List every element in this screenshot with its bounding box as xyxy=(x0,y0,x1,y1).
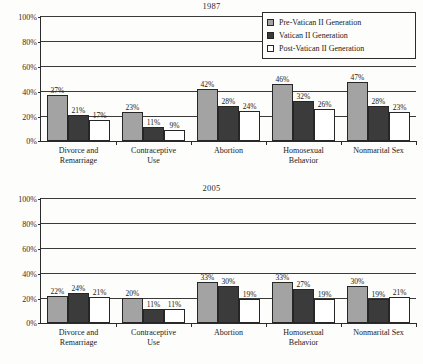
bar-value-label: 47% xyxy=(351,73,365,82)
chart-2005: 2005 100% 80% 60% 40% 20% xyxy=(0,182,423,364)
bar-pre-vatican[interactable]: 33% xyxy=(272,282,293,323)
bar-post-vatican[interactable]: 26% xyxy=(314,109,335,142)
legend-label: Vatican II Generation xyxy=(279,31,348,40)
ytick-label-80: 80% xyxy=(22,220,37,229)
bar-vatican[interactable]: 19% xyxy=(368,299,389,323)
bar-slot: 30% xyxy=(347,198,368,323)
bar-group: 20% 11% 11% xyxy=(116,198,191,323)
ytick-label-60: 60% xyxy=(22,245,37,254)
bar-value-label: 21% xyxy=(72,106,86,115)
bar-slot: 23% xyxy=(122,16,143,141)
x-axis-tick xyxy=(116,141,117,145)
bar-value-label: 17% xyxy=(93,111,107,120)
ytick-label-20: 20% xyxy=(22,295,37,304)
bar-value-label: 23% xyxy=(126,103,140,112)
legend-item[interactable]: Post-Vatican II Generation xyxy=(267,42,409,55)
bar-pre-vatican[interactable]: 46% xyxy=(272,84,293,142)
ytick-label-100: 100% xyxy=(18,13,37,22)
x-category-label: Contraceptive Use xyxy=(112,328,196,347)
x-category-label: Abortion xyxy=(187,328,271,338)
ytick-label-40: 40% xyxy=(22,88,37,97)
bar-value-label: 11% xyxy=(168,300,181,309)
x-category-line: Remarriage xyxy=(37,156,121,166)
bar-value-label: 33% xyxy=(201,273,215,282)
bar-group: 42% 28% 24% xyxy=(191,16,266,141)
x-category-label: Abortion xyxy=(187,146,271,156)
bar-value-label: 19% xyxy=(372,290,386,299)
x-axis-tick xyxy=(191,323,192,327)
bar-vatican[interactable]: 30% xyxy=(218,286,239,324)
bar-value-label: 20% xyxy=(126,289,140,298)
ytick-mark-0 xyxy=(38,323,42,324)
figure-two-bar-charts: 1987 100% 80% 60% 40% 20% xyxy=(0,0,423,364)
bar-slot: 17% xyxy=(89,16,110,141)
bar-pre-vatican[interactable]: 23% xyxy=(122,112,143,141)
legend-swatch-vatican-icon xyxy=(267,32,274,39)
bar-slot: 19% xyxy=(368,198,389,323)
bar-slot: 24% xyxy=(239,16,260,141)
x-category-label: Divorce and Remarriage xyxy=(37,146,121,165)
legend-swatch-pre-vatican-icon xyxy=(267,19,274,26)
x-category-line: Contraceptive xyxy=(112,146,196,156)
plot-area-2005: 100% 80% 60% 40% 20% 0% xyxy=(40,198,416,324)
bar-vatican[interactable]: 32% xyxy=(293,101,314,141)
bar-post-vatican[interactable]: 21% xyxy=(89,297,110,323)
bar-post-vatican[interactable]: 19% xyxy=(239,299,260,323)
bar-vatican[interactable]: 28% xyxy=(368,106,389,141)
bar-slot: 19% xyxy=(239,198,260,323)
chart-1987: 1987 100% 80% 60% 40% 20% xyxy=(0,0,423,182)
bar-pre-vatican[interactable]: 33% xyxy=(197,282,218,323)
bar-post-vatican[interactable]: 11% xyxy=(164,309,185,323)
bar-group: 30% 19% 21% xyxy=(341,198,416,323)
bar-post-vatican[interactable]: 17% xyxy=(89,120,110,141)
bar-value-label: 22% xyxy=(51,287,65,296)
bar-group-bars: 22% 24% 21% xyxy=(45,198,113,323)
bar-slot: 11% xyxy=(164,198,185,323)
bar-vatican[interactable]: 11% xyxy=(143,127,164,141)
bar-value-label: 21% xyxy=(393,288,407,297)
bar-value-label: 46% xyxy=(276,75,290,84)
x-category-line: Nonmarital Sex xyxy=(337,328,421,338)
bar-post-vatican[interactable]: 24% xyxy=(239,111,260,141)
x-category-line: Nonmarital Sex xyxy=(337,146,421,156)
x-axis-tick xyxy=(341,141,342,145)
bar-pre-vatican[interactable]: 20% xyxy=(122,298,143,323)
bar-vatican[interactable]: 24% xyxy=(68,293,89,323)
bar-pre-vatican[interactable]: 22% xyxy=(47,296,68,324)
bar-value-label: 30% xyxy=(351,277,365,286)
ytick-label-40: 40% xyxy=(22,270,37,279)
ytick-label-100: 100% xyxy=(18,195,37,204)
chart-title-1987: 1987 xyxy=(0,1,423,11)
bar-value-label: 24% xyxy=(243,102,257,111)
bar-slot: 42% xyxy=(197,16,218,141)
legend-item[interactable]: Pre-Vatican II Generation xyxy=(267,16,409,29)
bar-vatican[interactable]: 21% xyxy=(68,115,89,141)
x-category-line: Divorce and xyxy=(37,146,121,156)
legend-item[interactable]: Vatican II Generation xyxy=(267,29,409,42)
bar-post-vatican[interactable]: 23% xyxy=(389,112,410,141)
legend-label: Pre-Vatican II Generation xyxy=(279,18,361,27)
bar-value-label: 19% xyxy=(243,290,257,299)
bar-value-label: 30% xyxy=(222,277,236,286)
bar-pre-vatican[interactable]: 30% xyxy=(347,286,368,324)
bar-group-bars: 20% 11% 11% xyxy=(120,198,188,323)
bar-post-vatican[interactable]: 9% xyxy=(164,130,185,141)
bar-vatican[interactable]: 28% xyxy=(218,106,239,141)
bar-vatican[interactable]: 27% xyxy=(293,289,314,323)
bar-slot: 30% xyxy=(218,198,239,323)
bar-slot: 21% xyxy=(68,16,89,141)
bar-post-vatican[interactable]: 21% xyxy=(389,297,410,323)
bar-value-label: 33% xyxy=(276,273,290,282)
bar-value-label: 9% xyxy=(170,121,180,130)
bar-slot: 19% xyxy=(314,198,335,323)
bar-pre-vatican[interactable]: 37% xyxy=(47,95,68,141)
bar-post-vatican[interactable]: 19% xyxy=(314,299,335,323)
x-category-line: Remarriage xyxy=(37,338,121,348)
bar-vatican[interactable]: 11% xyxy=(143,309,164,323)
ytick-label-60: 60% xyxy=(22,63,37,72)
bar-pre-vatican[interactable]: 47% xyxy=(347,82,368,141)
bar-group: 37% 21% 17% xyxy=(41,16,116,141)
legend-label: Post-Vatican II Generation xyxy=(279,44,364,53)
bar-value-label: 11% xyxy=(147,118,160,127)
bar-pre-vatican[interactable]: 42% xyxy=(197,89,218,142)
